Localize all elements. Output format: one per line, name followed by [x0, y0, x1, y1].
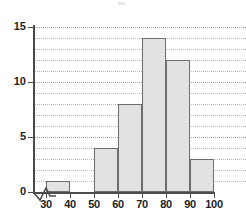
gridline-y-12 [34, 60, 246, 61]
y-tick-15 [28, 27, 34, 28]
y-axis-label: 15 [0, 20, 26, 32]
histogram-chart: 051015 30405060708090100 [0, 0, 246, 222]
y-axis-label: 5 [0, 130, 26, 142]
axis-break-zigzag [33, 184, 57, 204]
gridline-y-15 [34, 27, 246, 28]
gridline-y-10 [34, 82, 246, 83]
gridline-y-14 [34, 38, 246, 39]
histogram-bar [142, 38, 166, 192]
y-axis-label: 0 [0, 185, 26, 197]
y-tick-10 [28, 82, 34, 83]
histogram-bar [94, 148, 118, 192]
y-axis-label: 10 [0, 75, 26, 87]
y-tick-5 [28, 137, 34, 138]
y-axis-line [33, 25, 35, 194]
plot-area: 051015 30405060708090100 [0, 0, 246, 222]
gridline-y-13 [34, 49, 246, 50]
histogram-bar [118, 104, 142, 192]
histogram-bar [190, 159, 214, 192]
gridline-y-11 [34, 71, 246, 72]
gridline-y-9 [34, 93, 246, 94]
x-axis-label: 100 [200, 198, 228, 210]
histogram-bar [166, 60, 190, 192]
x-axis-line [33, 192, 215, 194]
